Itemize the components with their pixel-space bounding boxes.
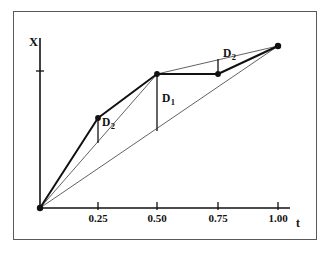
vertex-marker-t100 [275,43,281,49]
displacement-label-d2-right-sub: 2 [232,52,236,62]
vertex-marker-t050 [154,71,160,77]
figure-root: X t 0.25 0.50 0.75 1.00 D1 D2 D2 [0,0,330,254]
y-axis-label: X [29,36,38,49]
chord-lines-group [40,46,278,208]
displacement-label-d1-base: D [162,92,170,104]
vertex-marker-t000 [37,205,43,211]
displacement-label-d2-right-base: D [223,47,231,59]
displacement-label-d2-left: D2 [102,117,115,129]
x-tick-label-025: 0.25 [88,213,107,224]
displacement-label-d1-sub: 1 [171,97,175,107]
chord-level-0 [40,46,278,208]
displacement-label-d1: D1 [162,93,175,105]
x-axis-label: t [296,218,300,230]
vertex-marker-t025 [95,115,101,121]
vertex-marker-t075 [215,71,221,77]
x-tick-label-100: 1.00 [268,213,287,224]
x-tick-label-075: 0.75 [208,213,227,224]
displacement-label-d2-right: D2 [223,48,236,60]
displacement-label-d2-left-sub: 2 [111,121,115,131]
displacement-label-d2-left-base: D [102,116,110,128]
x-tick-label-050: 0.50 [147,213,166,224]
